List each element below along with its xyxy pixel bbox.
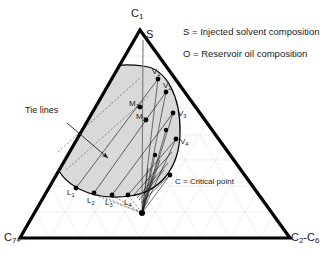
- point-label-S: S: [146, 29, 153, 40]
- ternary-phase-diagram: C1 C7+ C2-C6 S S = Injected solvent comp…: [0, 0, 336, 259]
- annotation-tie-lines: Tie lines: [25, 106, 58, 115]
- two-phase-envelope: [49, 65, 180, 197]
- diagram-canvas: [0, 0, 336, 259]
- point-label-L2: L2: [87, 197, 95, 206]
- point-label-V1: V1: [152, 68, 161, 77]
- annotation-critical-point: C = Critical point: [175, 178, 234, 186]
- point-critical: [168, 173, 173, 178]
- point-envelope-b: [153, 153, 157, 157]
- point-label-V3: V3: [178, 110, 187, 119]
- point-L2: [92, 191, 97, 196]
- point-V4: [174, 137, 179, 142]
- corner-label-c7plus: C7+: [4, 232, 21, 245]
- corner-label-c2-c6: C2-C6: [291, 232, 319, 245]
- point-envelope-a: [164, 128, 168, 132]
- point-label-V2: V2: [163, 82, 172, 91]
- legend-item-oil: O = Reservoir oil composition: [183, 49, 307, 59]
- legend-item-solvent: S = Injected solvent composition: [183, 27, 320, 37]
- point-label-L1: L1: [67, 189, 75, 198]
- point-O: [139, 210, 145, 216]
- point-label-M1: M1: [129, 100, 139, 109]
- point-label-V4: V4: [180, 138, 189, 147]
- point-V3: [171, 111, 176, 116]
- point-L3: [110, 193, 115, 198]
- point-label-L4: L4: [124, 199, 132, 208]
- point-L4: [126, 193, 131, 198]
- point-label-L3: L3: [105, 199, 113, 208]
- point-label-M2: M2: [136, 113, 146, 122]
- corner-label-apex-c1: C1: [131, 8, 143, 21]
